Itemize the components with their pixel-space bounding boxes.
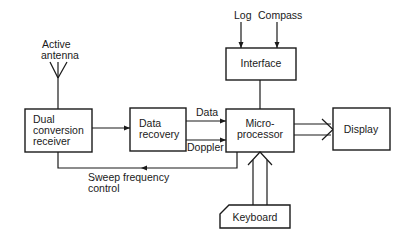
log-arrow	[239, 22, 244, 48]
data-label: Data	[196, 106, 218, 118]
doppler-label: Doppler	[187, 141, 224, 153]
display-label: Display	[344, 123, 379, 135]
keyboard-to-microprocessor-double-arrow	[248, 152, 272, 205]
compass-label: Compass	[258, 9, 302, 21]
receiver-label-line3: receiver	[33, 135, 71, 147]
data-recovery-label-line2: recovery	[139, 128, 180, 140]
block-diagram: Active antenna Dual conversion receiver …	[0, 0, 409, 244]
microprocessor-to-display-double-arrow	[294, 119, 333, 140]
compass-arrow	[275, 22, 280, 48]
microprocessor-block: Micro- processor	[226, 109, 294, 152]
data-recovery-block: Data recovery	[130, 108, 186, 151]
microprocessor-label-line2: processor	[237, 128, 284, 140]
interface-label: Interface	[241, 57, 282, 69]
keyboard-block: Keyboard	[220, 205, 290, 228]
receiver-to-recovery-arrow	[92, 126, 130, 131]
interface-block: Interface	[226, 48, 296, 80]
receiver-block: Dual conversion receiver	[25, 109, 92, 152]
sweep-frequency-arrow	[58, 152, 237, 171]
keyboard-label: Keyboard	[233, 211, 278, 223]
log-label: Log	[234, 9, 252, 21]
data-arrow	[186, 119, 226, 124]
sweep-label-line2: control	[88, 182, 120, 194]
antenna-label-line2: antenna	[41, 49, 79, 61]
display-block: Display	[333, 108, 390, 150]
antenna-icon	[50, 62, 67, 109]
